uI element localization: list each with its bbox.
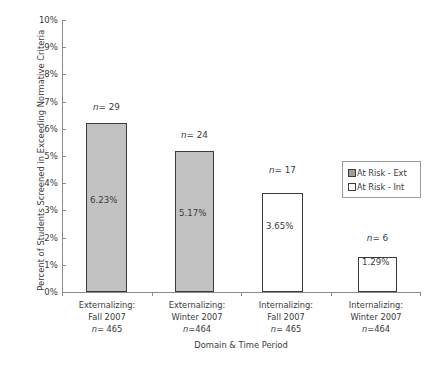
bar[interactable] (86, 123, 127, 292)
x-axis-tick (152, 292, 153, 296)
y-axis-tick-label: 3% (30, 206, 58, 215)
bar[interactable] (262, 193, 303, 292)
y-axis-tick-label: 6% (30, 125, 58, 134)
legend-swatch-icon (348, 169, 356, 177)
bar-value-label: 3.65% (266, 222, 293, 231)
y-axis-tick-label: 7% (30, 98, 58, 107)
x-axis-category-label: Internalizing:Fall 2007n= 465 (241, 299, 331, 336)
y-axis-tick-label: 1% (30, 261, 58, 270)
legend-item[interactable]: At Risk - Ext (348, 166, 420, 180)
legend-item-label: At Risk - Ext (357, 169, 407, 177)
x-axis-category-label: Externalizing:Fall 2007n= 465 (62, 299, 152, 336)
x-axis-title: Domain & Time Period (62, 341, 420, 349)
bar-chart: Percent of Students Screened in Exceedin… (0, 0, 437, 369)
y-axis-tick (62, 47, 66, 48)
x-axis-tick (62, 292, 63, 296)
y-axis-tick-label: 2% (30, 234, 58, 243)
bar-value-label: 6.23% (90, 196, 117, 205)
legend: At Risk - ExtAt Risk - Int (342, 161, 421, 198)
y-axis-tick (62, 156, 66, 157)
bar-sample-size-label: n= 6 (338, 234, 417, 243)
y-axis-tick-label: 10% (30, 16, 58, 25)
bar-value-label: 1.29% (362, 258, 389, 267)
bar-value-label: 5.17% (179, 209, 206, 218)
y-axis-tick (62, 20, 66, 21)
x-axis-tick (420, 292, 421, 296)
y-axis-tick (62, 238, 66, 239)
x-axis-category-label: Internalizing:Winter 2007n=464 (331, 299, 421, 336)
y-axis-tick-label: 9% (30, 43, 58, 52)
x-axis-tick (241, 292, 242, 296)
bar-sample-size-label: n= 24 (155, 131, 234, 140)
y-axis-tick-label: 0% (30, 288, 58, 297)
y-axis-tick (62, 265, 66, 266)
y-axis-tick (62, 129, 66, 130)
bar[interactable] (175, 151, 214, 292)
bar-sample-size-label: n= 17 (242, 166, 323, 175)
y-axis-tick-label: 4% (30, 179, 58, 188)
y-axis-tick (62, 183, 66, 184)
y-axis-tick-label: 5% (30, 152, 58, 161)
legend-item[interactable]: At Risk - Int (348, 180, 420, 194)
bar-sample-size-label: n= 29 (66, 103, 147, 112)
x-axis-category-label: Externalizing:Winter 2007n=464 (152, 299, 242, 336)
legend-swatch-icon (348, 183, 356, 191)
legend-item-label: At Risk - Int (357, 183, 404, 191)
y-axis-tick-label: 8% (30, 70, 58, 79)
x-axis-tick (331, 292, 332, 296)
y-axis-tick (62, 210, 66, 211)
y-axis-tick (62, 74, 66, 75)
